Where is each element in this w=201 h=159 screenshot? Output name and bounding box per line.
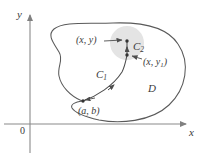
point-ab-label: (a, b)	[78, 106, 100, 116]
curve-c2-label-subscript: 2	[140, 45, 144, 54]
figure-container: y x 0 (x, y) (x, y1) C2 C1 (a, b) D	[0, 0, 201, 159]
point-xy1-label-main: (x, y	[143, 56, 160, 67]
curve-c1-label: C1	[96, 69, 107, 80]
x-axis-label: x	[189, 127, 194, 138]
y-axis-label: y	[17, 9, 22, 20]
point-xy1-label-tail: )	[164, 56, 167, 67]
point-xy1-marker	[125, 53, 128, 56]
point-xy1-label-subscript: 1	[160, 61, 163, 68]
curve-c2-label: C2	[133, 41, 144, 52]
curve-c1-label-subscript: 1	[103, 73, 107, 82]
point-xy-marker	[125, 39, 128, 42]
region-d-label: D	[148, 83, 156, 94]
point-xy1-label: (x, y1)	[143, 57, 167, 67]
point-ab-marker	[81, 99, 84, 102]
point-xy-label: (x, y)	[76, 35, 97, 45]
origin-label: 0	[20, 126, 25, 136]
